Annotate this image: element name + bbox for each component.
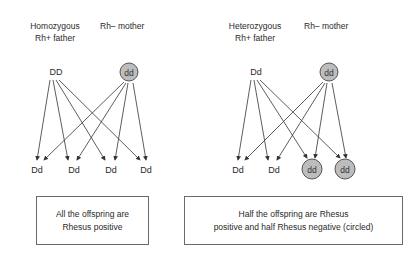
right-father-label: Heterozygous Rh+ father — [222, 20, 288, 44]
left-father-label-line2: Rh+ father — [22, 32, 88, 44]
right-offspring-1: Dd — [232, 164, 244, 176]
right-caption-line1: Half the offspring are Rhesus — [239, 208, 349, 221]
right-caption-box: Half the offspring are Rhesus positive a… — [184, 196, 403, 245]
right-offspring-3-circle: dd — [302, 159, 323, 180]
right-father-genotype: Dd — [250, 66, 262, 78]
left-father-label: Homozygous Rh+ father — [22, 20, 88, 44]
right-mother-genotype-circle: dd — [320, 63, 339, 82]
left-father-genotype: DD — [50, 66, 63, 78]
left-offspring-1: Dd — [31, 164, 43, 176]
right-mother-label: Rh– mother — [304, 20, 348, 32]
left-offspring-3: Dd — [105, 164, 117, 176]
left-caption-box: All the offspring are Rhesus positive — [36, 196, 149, 245]
left-mother-genotype-circle: dd — [120, 63, 139, 82]
left-mother-label: Rh– mother — [100, 20, 144, 32]
left-mother-genotype: dd — [124, 67, 133, 77]
right-offspring-4-circle: dd — [335, 159, 356, 180]
right-caption-line2: positive and half Rhesus negative (circl… — [214, 221, 374, 234]
left-caption-line2: Rhesus positive — [62, 221, 122, 234]
right-offspring-2: Dd — [268, 164, 280, 176]
right-father-label-line2: Rh+ father — [222, 32, 288, 44]
left-father-label-line1: Homozygous — [22, 20, 88, 32]
left-caption-line1: All the offspring are — [56, 208, 129, 221]
left-offspring-4: Dd — [140, 164, 152, 176]
right-offspring-4: dd — [340, 164, 349, 174]
right-father-label-line1: Heterozygous — [222, 20, 288, 32]
right-offspring-3: dd — [307, 164, 316, 174]
left-offspring-2: Dd — [68, 164, 80, 176]
right-mother-genotype: dd — [324, 67, 333, 77]
